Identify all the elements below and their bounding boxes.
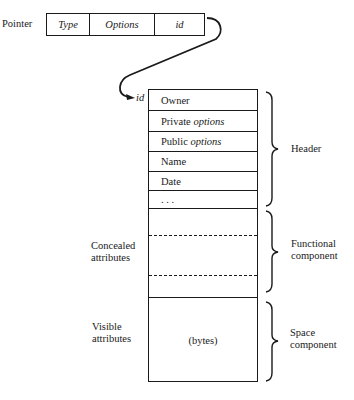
label-line: Concealed bbox=[91, 240, 135, 252]
header-row-owner: Owner bbox=[149, 90, 257, 111]
functional-slot-2 bbox=[149, 236, 257, 276]
header-row-date: Date bbox=[149, 172, 257, 191]
row-label: Date bbox=[161, 176, 181, 187]
header-row-name: Name bbox=[149, 152, 257, 172]
header-row-private-options: Private options bbox=[149, 111, 257, 132]
label-line: Visible bbox=[92, 321, 131, 333]
label-line: attributes bbox=[92, 333, 131, 345]
header-row-ellipsis: . . . bbox=[149, 191, 257, 209]
row-label: . . . bbox=[161, 194, 174, 205]
arrowhead-icon bbox=[126, 94, 135, 100]
object-record: Owner Private options Public options Nam… bbox=[148, 89, 258, 382]
space-component-area: (bytes) bbox=[149, 298, 257, 382]
row-label: Name bbox=[161, 156, 186, 167]
concealed-attributes-label: Concealed attributes bbox=[91, 240, 135, 264]
label-line: Functional bbox=[291, 238, 338, 250]
header-brace bbox=[266, 92, 278, 206]
space-brace bbox=[266, 302, 278, 381]
label-line: attributes bbox=[91, 252, 135, 264]
record-entry-id-label: id bbox=[136, 92, 144, 104]
visible-attributes-label: Visible attributes bbox=[92, 321, 131, 345]
label-line: component bbox=[291, 250, 338, 262]
label-line: Space bbox=[290, 327, 337, 339]
header-label: Header bbox=[291, 143, 321, 155]
row-label-italic: options bbox=[190, 136, 221, 147]
functional-component-label: Functional component bbox=[291, 238, 338, 262]
space-content-label: (bytes) bbox=[188, 335, 217, 346]
space-component-label: Space component bbox=[290, 327, 337, 351]
row-label: Owner bbox=[161, 95, 190, 106]
row-label-italic: options bbox=[193, 116, 224, 127]
functional-slot-3 bbox=[149, 276, 257, 298]
row-label: Public bbox=[161, 136, 190, 147]
header-row-public-options: Public options bbox=[149, 132, 257, 152]
label-line: component bbox=[290, 339, 337, 351]
functional-brace bbox=[266, 211, 278, 292]
pointer-arrow bbox=[120, 18, 221, 97]
row-label: Private bbox=[161, 116, 193, 127]
functional-slot-1 bbox=[149, 209, 257, 236]
